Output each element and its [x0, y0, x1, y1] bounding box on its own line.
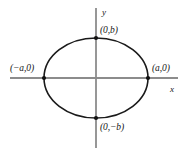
vertex-label-right: (a,0) [152, 64, 170, 74]
y-axis-label: y [102, 8, 106, 17]
figure-canvas [0, 0, 188, 154]
vertex-point-left [42, 76, 46, 80]
vertex-label-left: (−a,0) [10, 64, 34, 74]
vertex-label-top: (0,b) [100, 26, 118, 36]
ellipse-figure: (0,b) (a,0) (0,−b) (−a,0) y x [0, 0, 188, 154]
vertex-label-bottom: (0,−b) [100, 123, 124, 133]
x-axis-label: x [170, 85, 174, 94]
vertex-point-top [94, 36, 98, 40]
vertex-point-bottom [94, 116, 98, 120]
vertex-point-right [146, 76, 150, 80]
